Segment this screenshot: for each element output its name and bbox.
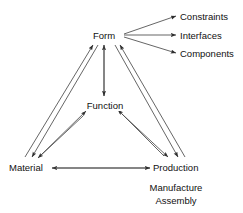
node-material[interactable]: Material — [8, 162, 44, 173]
leaf-components[interactable]: Components — [180, 48, 234, 59]
production-detail-manufacture: Manufacture — [150, 182, 203, 193]
leaf-constraints[interactable]: Constraints — [180, 11, 228, 22]
arrow-function-to-material — [38, 116, 83, 158]
leaf-interfaces[interactable]: Interfaces — [180, 30, 222, 41]
node-production[interactable]: Production — [152, 162, 199, 173]
diagram-canvas: Form Function Material Production Constr… — [0, 0, 243, 213]
node-function[interactable]: Function — [86, 100, 124, 111]
node-form[interactable]: Form — [92, 30, 116, 41]
arrow-production-to-form — [120, 45, 185, 157]
arrow-function-to-production — [122, 114, 168, 157]
arrow-material-to-form — [25, 45, 93, 157]
arrow-form-to-constraints — [124, 16, 176, 34]
production-detail-assembly: Assembly — [155, 195, 196, 206]
arrow-form-to-components — [124, 37, 176, 53]
arrow-form-to-production — [115, 45, 178, 157]
